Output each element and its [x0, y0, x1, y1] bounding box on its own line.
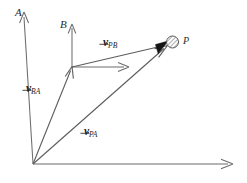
vector-label-v-pb: vPB: [103, 33, 117, 50]
vector-overarrow-icon: [30, 87, 39, 92]
frame-b-axes: [68, 24, 129, 72]
frame-a-axes: [20, 12, 233, 169]
vector-label-v-pa: vPA: [84, 122, 98, 139]
particle-p-marker: [167, 36, 179, 48]
vector-v-pa-shaft: [33, 49, 164, 165]
vector-overarrow-icon: [88, 130, 97, 135]
vector-label-v-ba: vBA: [26, 79, 40, 96]
figure-canvas: A B P vBA vPB vPA: [0, 0, 247, 183]
particle-label-p: P: [183, 36, 189, 46]
vector-overarrow-icon: [107, 41, 116, 46]
axis-label-a: A: [15, 7, 22, 18]
vector-v-pa: [33, 46, 168, 165]
axis-label-b: B: [60, 19, 67, 30]
